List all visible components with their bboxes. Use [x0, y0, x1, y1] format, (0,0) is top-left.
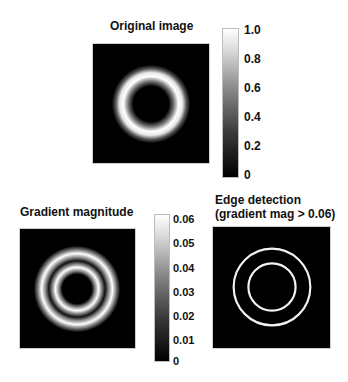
edge-detection-plot [212, 226, 331, 349]
colorbar-tick: 0.4 [244, 111, 261, 123]
colorbar-tick: 1.0 [244, 24, 261, 36]
edge-detection-title-line2: (gradient mag > 0.06) [215, 208, 335, 221]
colorbar-tick: 0.01 [173, 334, 194, 346]
gradient-colorbar [154, 214, 170, 362]
edge-detection-title-line1: Edge detection [215, 194, 301, 207]
colorbar-tick: 0.04 [173, 262, 194, 274]
colorbar-tick: 0.03 [173, 286, 194, 298]
colorbar-tick: 0 [244, 169, 251, 181]
original-colorbar [222, 28, 239, 178]
colorbar-tick: 0.05 [173, 237, 194, 249]
colorbar-tick: 0.8 [244, 53, 261, 65]
colorbar-tick: 0.2 [244, 140, 261, 152]
colorbar-tick: 0.6 [244, 82, 261, 94]
original-image-plot [92, 43, 210, 164]
gradient-magnitude-plot [19, 228, 136, 349]
colorbar-tick: 0.06 [173, 213, 194, 225]
gradient-rings-image [20, 229, 135, 348]
colorbar-tick: 0.02 [173, 310, 194, 322]
ring-image [93, 44, 209, 163]
colorbar-tick: 0 [173, 355, 179, 367]
original-image-title: Original image [110, 20, 193, 33]
edge-rings-image [213, 227, 330, 348]
gradient-magnitude-title: Gradient magnitude [20, 206, 133, 219]
